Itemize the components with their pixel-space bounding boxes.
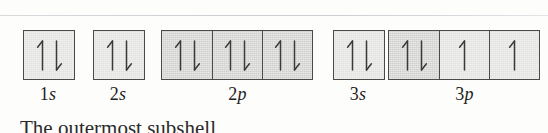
spin-up-arrow-icon <box>458 39 471 72</box>
orbital-label-number: 1 <box>40 84 49 104</box>
orbital-box <box>162 31 212 79</box>
orbital-boxrow-3p <box>388 30 540 80</box>
orbital-box <box>489 31 539 79</box>
orbital-box <box>94 31 144 79</box>
electron-spin-arrows <box>36 39 63 72</box>
spin-down-arrow-icon <box>188 39 201 72</box>
spin-down-arrow-icon <box>415 39 428 72</box>
orbital-label-number: 3 <box>455 84 464 104</box>
orbital-boxrow-2s <box>93 30 145 80</box>
spin-down-arrow-icon <box>50 39 63 72</box>
electron-spin-arrows <box>508 39 521 72</box>
orbital-group-1s <box>23 30 75 80</box>
electron-spin-arrows <box>106 39 133 72</box>
clipped-caption-text: The outermost subshell <box>20 118 540 133</box>
orbital-box <box>439 31 489 79</box>
spin-up-arrow-icon <box>36 39 49 72</box>
orbital-label-letter: s <box>359 84 366 104</box>
orbital-boxrow-1s <box>23 30 75 80</box>
spin-down-arrow-icon <box>360 39 373 72</box>
orbital-boxrow-3s <box>333 30 385 80</box>
orbital-box <box>24 31 74 79</box>
spin-up-arrow-icon <box>401 39 414 72</box>
electron-spin-arrows <box>346 39 373 72</box>
orbital-label-number: 2 <box>110 84 119 104</box>
electron-spin-arrows <box>458 39 471 72</box>
orbital-group-3s <box>333 30 385 80</box>
spin-down-arrow-icon <box>288 39 301 72</box>
spin-up-arrow-icon <box>174 39 187 72</box>
orbital-box <box>389 31 439 79</box>
spin-down-arrow-icon <box>120 39 133 72</box>
orbital-boxrow-2p <box>161 30 313 80</box>
spin-up-arrow-icon <box>346 39 359 72</box>
orbital-label-number: 2 <box>228 84 237 104</box>
orbital-box <box>334 31 384 79</box>
orbital-group-3p <box>388 30 540 80</box>
orbital-label-number: 3 <box>350 84 359 104</box>
orbital-label-letter: p <box>238 84 247 104</box>
orbital-label-letter: s <box>119 84 126 104</box>
orbital-box <box>262 31 312 79</box>
spin-up-arrow-icon <box>224 39 237 72</box>
orbital-groups-container: 1s2s2p3s3p <box>0 0 548 133</box>
orbital-label-2p: 2p <box>161 84 314 105</box>
orbital-group-2p <box>161 30 313 80</box>
orbital-label-2s: 2s <box>93 84 143 105</box>
orbital-diagram-figure: 1s2s2p3s3p The outermost subshell <box>0 0 548 133</box>
spin-down-arrow-icon <box>238 39 251 72</box>
orbital-label-1s: 1s <box>23 84 73 105</box>
spin-up-arrow-icon <box>274 39 287 72</box>
spin-up-arrow-icon <box>106 39 119 72</box>
electron-spin-arrows <box>274 39 301 72</box>
electron-spin-arrows <box>174 39 201 72</box>
orbital-box <box>212 31 262 79</box>
orbital-label-3s: 3s <box>333 84 383 105</box>
electron-spin-arrows <box>224 39 251 72</box>
orbital-label-letter: p <box>465 84 474 104</box>
electron-spin-arrows <box>401 39 428 72</box>
orbital-label-letter: s <box>49 84 56 104</box>
spin-up-arrow-icon <box>508 39 521 72</box>
orbital-group-2s <box>93 30 145 80</box>
orbital-label-3p: 3p <box>388 84 541 105</box>
